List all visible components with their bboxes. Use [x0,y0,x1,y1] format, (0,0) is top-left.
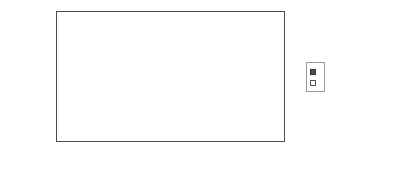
legend-item-entrepreneurship[interactable] [310,66,320,77]
chart-figure [0,0,420,193]
plot-area [56,11,285,142]
empty-square-icon [310,80,316,86]
y-axis-tick-labels [20,0,53,193]
filled-square-icon [310,69,316,75]
bar-series-group [57,12,284,141]
chart-legend [306,62,325,92]
legend-item-new-venture-creation[interactable] [310,77,320,88]
